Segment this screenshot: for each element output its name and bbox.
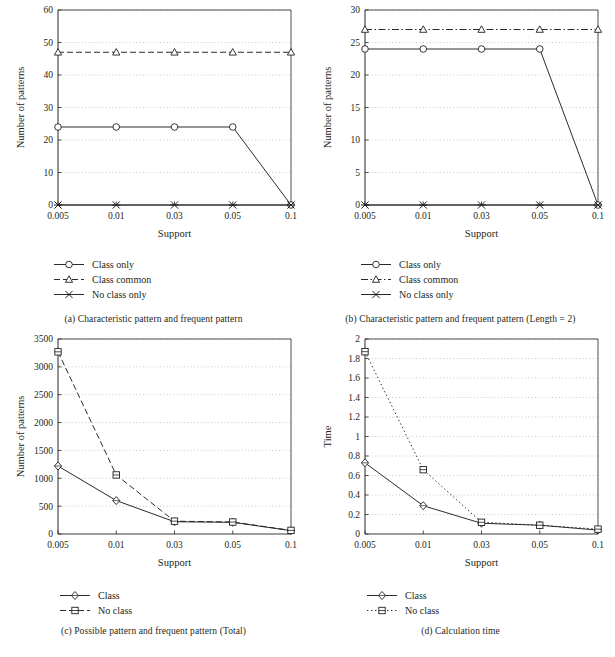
svg-text:0.03: 0.03 xyxy=(473,211,490,221)
subfigure-c: 05001000150020002500300035000.0050.010.0… xyxy=(0,329,307,657)
caption-a: (a) Characteristic pattern and frequent … xyxy=(0,314,307,324)
legend-b: Class onlyClass commonNo class only xyxy=(359,258,614,301)
chart-c: 05001000150020002500300035000.0050.010.0… xyxy=(0,329,307,579)
chart-b: 0510152025300.0050.010.030.050.1SupportN… xyxy=(307,0,614,250)
plot-area-b: 0510152025300.0050.010.030.050.1SupportN… xyxy=(307,0,614,250)
legend-item: Class only xyxy=(359,258,614,271)
svg-text:0.05: 0.05 xyxy=(224,211,241,221)
subfigure-d: 00.20.40.60.811.21.41.61.820.0050.010.03… xyxy=(307,329,614,657)
svg-text:2500: 2500 xyxy=(34,390,53,400)
legend-item: No class only xyxy=(359,288,614,301)
circle-marker-icon xyxy=(52,258,86,271)
legend-item-label: No class xyxy=(399,604,439,617)
square-marker-icon xyxy=(58,604,92,617)
svg-text:0.05: 0.05 xyxy=(531,540,548,550)
subfigure-b: 0510152025300.0050.010.030.050.1SupportN… xyxy=(307,0,614,328)
svg-text:30: 30 xyxy=(44,103,54,113)
svg-text:0.01: 0.01 xyxy=(415,540,432,550)
svg-text:Support: Support xyxy=(158,228,191,239)
svg-text:1.2: 1.2 xyxy=(348,412,360,422)
legend-item-label: No class only xyxy=(393,288,453,301)
legend-item: No class xyxy=(58,604,307,617)
legend-rows-a: Class onlyClass commonNo class only xyxy=(52,258,307,301)
legend-item-label: No class xyxy=(92,604,132,617)
svg-text:15: 15 xyxy=(351,103,361,113)
caption-b: (b) Characteristic pattern and frequent … xyxy=(307,314,614,324)
legend-item-label: Class xyxy=(92,589,120,602)
svg-text:0.6: 0.6 xyxy=(348,471,360,481)
legend-item: Class common xyxy=(52,273,307,286)
svg-text:0.05: 0.05 xyxy=(531,211,548,221)
svg-text:0.005: 0.005 xyxy=(354,211,376,221)
legend-rows-c: ClassNo class xyxy=(58,589,307,617)
svg-text:0.2: 0.2 xyxy=(348,510,360,520)
svg-text:10: 10 xyxy=(351,135,361,145)
svg-text:0.005: 0.005 xyxy=(47,540,69,550)
svg-text:1.6: 1.6 xyxy=(348,373,360,383)
plot-area-c: 05001000150020002500300035000.0050.010.0… xyxy=(0,329,307,579)
svg-text:Number of patterns: Number of patterns xyxy=(15,67,26,149)
chart-d: 00.20.40.60.811.21.41.61.820.0050.010.03… xyxy=(307,329,614,579)
legend-item: Class common xyxy=(359,273,614,286)
svg-text:3500: 3500 xyxy=(34,334,53,344)
caption-c: (c) Possible pattern and frequent patter… xyxy=(0,626,307,636)
svg-text:2000: 2000 xyxy=(34,418,53,428)
square-marker-icon xyxy=(365,604,399,617)
svg-text:40: 40 xyxy=(44,70,54,80)
asterisk-marker-icon xyxy=(359,288,393,301)
svg-text:0.05: 0.05 xyxy=(224,540,241,550)
svg-text:Support: Support xyxy=(465,557,498,568)
svg-text:Number of patterns: Number of patterns xyxy=(15,396,26,478)
svg-text:0.03: 0.03 xyxy=(166,211,183,221)
svg-text:25: 25 xyxy=(351,38,361,48)
triangle-marker-icon xyxy=(359,273,393,286)
legend-item: Class only xyxy=(52,258,307,271)
svg-text:0.01: 0.01 xyxy=(108,540,125,550)
legend-item-label: Class common xyxy=(86,273,151,286)
svg-text:0.1: 0.1 xyxy=(592,540,604,550)
svg-text:0.1: 0.1 xyxy=(285,211,297,221)
legend-item-label: No class only xyxy=(86,288,146,301)
svg-text:0.01: 0.01 xyxy=(415,211,432,221)
diamond-marker-icon xyxy=(58,589,92,602)
svg-text:3000: 3000 xyxy=(34,362,53,372)
svg-text:50: 50 xyxy=(44,38,54,48)
svg-text:0: 0 xyxy=(355,529,360,539)
svg-text:Support: Support xyxy=(465,228,498,239)
svg-text:20: 20 xyxy=(44,135,54,145)
svg-text:0.03: 0.03 xyxy=(166,540,183,550)
legend-item: Class xyxy=(365,589,614,602)
svg-text:0.03: 0.03 xyxy=(473,540,490,550)
svg-text:0.005: 0.005 xyxy=(47,211,69,221)
svg-text:0.005: 0.005 xyxy=(354,540,376,550)
triangle-marker-icon xyxy=(52,273,86,286)
svg-text:2: 2 xyxy=(355,334,360,344)
caption-d: (d) Calculation time xyxy=(307,626,614,636)
svg-text:0.8: 0.8 xyxy=(348,451,360,461)
svg-text:Support: Support xyxy=(158,557,191,568)
svg-text:1: 1 xyxy=(355,432,360,442)
circle-marker-icon xyxy=(359,258,393,271)
chart-a: 01020304050600.0050.010.030.050.1Support… xyxy=(0,0,307,250)
figure-panel-grid: 01020304050600.0050.010.030.050.1Support… xyxy=(0,0,615,657)
plot-area-a: 01020304050600.0050.010.030.050.1Support… xyxy=(0,0,307,250)
svg-text:1000: 1000 xyxy=(34,474,53,484)
legend-c: ClassNo class xyxy=(58,589,307,617)
svg-text:0: 0 xyxy=(48,200,53,210)
svg-text:0.4: 0.4 xyxy=(348,490,360,500)
legend-item-label: Class xyxy=(399,589,427,602)
svg-text:1500: 1500 xyxy=(34,446,53,456)
legend-item: No class only xyxy=(52,288,307,301)
svg-text:500: 500 xyxy=(39,502,54,512)
svg-text:0.1: 0.1 xyxy=(592,211,604,221)
svg-text:10: 10 xyxy=(44,168,54,178)
svg-text:60: 60 xyxy=(44,5,54,15)
svg-text:1.8: 1.8 xyxy=(348,354,360,364)
svg-text:1.4: 1.4 xyxy=(348,393,360,403)
legend-item-label: Class common xyxy=(393,273,458,286)
svg-text:0: 0 xyxy=(48,529,53,539)
legend-a: Class onlyClass commonNo class only xyxy=(52,258,307,301)
subfigure-a: 01020304050600.0050.010.030.050.1Support… xyxy=(0,0,307,328)
svg-text:Time: Time xyxy=(322,425,333,447)
legend-item-label: Class only xyxy=(393,258,441,271)
